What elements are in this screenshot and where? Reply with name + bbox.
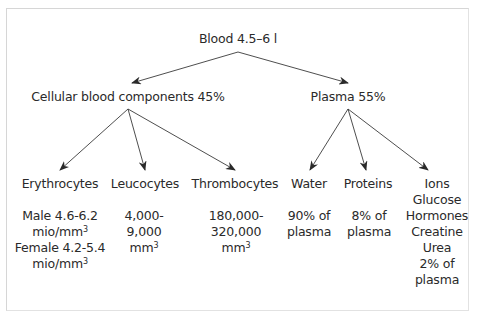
proteins-details: 8% of plasma [347,208,391,240]
arrow-cellular-to-leucocytes [128,109,145,170]
arrow-blood-to-plasma [238,52,348,83]
water-details: 90% of plasma [287,208,331,240]
arrow-plasma-to-water [310,109,348,170]
node-ions: Ions [425,176,450,192]
arrow-cellular-to-thrombocytes [128,109,235,170]
node-leucocytes: Leucocytes [111,176,179,192]
arrow-plasma-to-ions [348,109,428,170]
node-proteins: Proteins [344,176,393,192]
ions-details: Glucose Hormones Creatine Urea 2% of pla… [406,192,468,288]
node-plasma: Plasma 55% [311,89,386,105]
arrow-cellular-to-erythrocytes [60,109,128,170]
thrombocytes-details: 180,000- 320,000 mm3 [209,208,264,256]
node-thrombocytes: Thrombocytes [192,176,279,192]
leucocytes-details: 4,000- 9,000 mm3 [124,208,163,256]
node-erythrocytes: Erythrocytes [22,176,99,192]
arrow-plasma-to-proteins [348,109,366,170]
node-water: Water [291,176,327,192]
root-node-blood: Blood 4.5–6 l [199,31,277,47]
arrow-blood-to-cellular [132,52,238,83]
node-cellular-components: Cellular blood components 45% [31,89,224,105]
erythrocytes-details: Male 4.6-6.2 mio/mm3 Female 4.2-5.4 mio/… [15,208,106,272]
